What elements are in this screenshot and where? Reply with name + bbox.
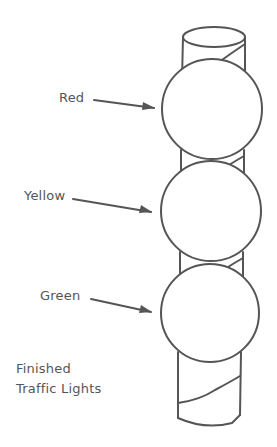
caption-line-1: Finished [16, 362, 71, 375]
green-light-circle [161, 264, 259, 362]
traffic-light-drawing [0, 0, 277, 447]
red-arrow-icon [94, 100, 155, 110]
green-label: Green [40, 289, 80, 302]
yellow-label: Yellow [24, 189, 65, 202]
traffic-light-diagram: Red Yellow Green Finished Traffic Lights [0, 0, 277, 447]
tube-top-opening [183, 27, 245, 47]
caption-line-2: Traffic Lights [16, 382, 101, 395]
yellow-arrow-icon [73, 199, 152, 213]
red-label: Red [59, 91, 84, 104]
red-light-circle [162, 59, 262, 159]
green-arrow-icon [91, 299, 152, 313]
yellow-light-circle [161, 161, 261, 261]
